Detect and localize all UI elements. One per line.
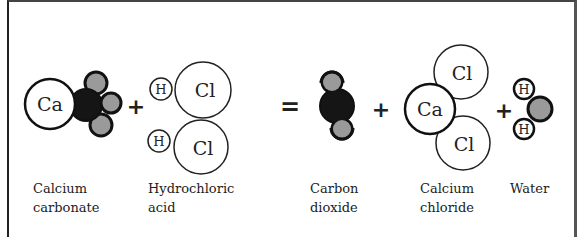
label-line: Calcium (420, 179, 474, 198)
oxygen-atom (528, 97, 552, 121)
label-calcium-carbonate: Calcium carbonate (33, 179, 99, 217)
label-line: carbonate (33, 198, 99, 217)
hydrogen-symbol: H (518, 122, 529, 137)
hydrogen-symbol: H (153, 134, 164, 149)
label-water: Water (510, 179, 549, 198)
plus-operator: + (127, 94, 145, 119)
chlorine-symbol: Cl (454, 133, 475, 155)
hydrochloric-acid-molecules: H Cl H Cl (148, 62, 231, 174)
label-calcium-chloride: Calcium chloride (420, 179, 474, 217)
label-line: dioxide (310, 198, 358, 217)
calcium-carbonate-molecule: Ca (25, 72, 121, 136)
water-molecule: H H (514, 79, 552, 139)
chlorine-symbol: Cl (452, 62, 473, 84)
label-carbon-dioxide: Carbon dioxide (310, 179, 358, 217)
hydrogen-symbol: H (155, 82, 166, 97)
chlorine-symbol: Cl (193, 137, 214, 159)
calcium-chloride-molecule: Ca Cl Cl (405, 45, 490, 170)
carbon-atom (320, 89, 354, 123)
calcium-symbol: Ca (37, 93, 63, 115)
label-line: Hydrochloric (148, 179, 234, 198)
plus-operator: + (372, 97, 390, 122)
equals-operator: = (280, 93, 300, 121)
label-line: Calcium (33, 179, 99, 198)
carbon-dioxide-molecule (320, 72, 354, 139)
label-line: acid (148, 198, 234, 217)
label-line: Water (510, 179, 549, 198)
chlorine-symbol: Cl (195, 79, 216, 101)
hydrogen-symbol: H (518, 82, 529, 97)
label-line: chloride (420, 198, 474, 217)
label-hydrochloric-acid: Hydrochloric acid (148, 179, 234, 217)
calcium-symbol: Ca (417, 98, 443, 120)
oxygen-atom (101, 93, 121, 113)
label-line: Carbon (310, 179, 358, 198)
plus-operator: + (495, 98, 513, 123)
